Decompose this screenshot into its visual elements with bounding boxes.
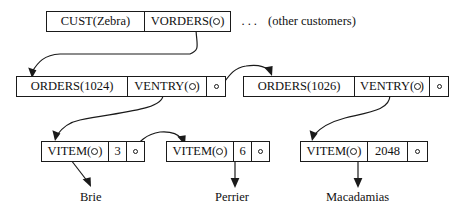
product-label-perrier: Perrier <box>215 191 249 204</box>
vitem-prefix: VITEM( <box>48 145 92 158</box>
wire-vitem-brie-to-label <box>71 160 88 182</box>
cust-label-cell: CUST(Zebra) <box>47 12 144 31</box>
orders-1024-node: ORDERS(1024) VENTRY() <box>16 76 226 97</box>
vitem-perrier-quantity-cell: 6 <box>233 142 251 161</box>
arrowhead-macadamias-label <box>354 178 363 188</box>
pointer-diagram: CUST(Zebra) VORDERS() ··· (other custome… <box>0 0 458 215</box>
pointer-key-icon <box>414 83 420 90</box>
orders-1026-null-pointer-cell <box>429 77 448 96</box>
cust-label: CUST(Zebra) <box>61 15 130 28</box>
arrowhead-vitem-brie <box>52 130 60 141</box>
null-pointer-icon <box>437 84 442 89</box>
vitem-brie-node: VITEM() 3 <box>41 141 145 162</box>
product-label-macadamias: Macadamias <box>326 191 389 204</box>
pointer-key-icon <box>189 83 196 90</box>
wire-ventry1026-to-vitem-macadamias <box>314 95 390 135</box>
pointer-key-icon <box>350 148 357 155</box>
vitem-macadamias-pointer-cell: VITEM() <box>301 142 367 161</box>
ventry-1024-pointer-cell: VENTRY() <box>127 77 206 96</box>
vorders-pointer-cell: VORDERS() <box>144 12 230 31</box>
other-customers-label: (other customers) <box>268 15 356 28</box>
ellipsis-marker: ··· <box>241 17 260 32</box>
arrowhead-brie-label <box>83 177 91 187</box>
vitem-prefix: VITEM( <box>307 145 351 158</box>
null-pointer-icon <box>258 149 263 154</box>
orders-1026-label: ORDERS(1026) <box>258 80 341 93</box>
pointer-dot-icon <box>214 84 219 89</box>
connector-wires <box>0 0 458 215</box>
ventry-1026-pointer-cell: VENTRY() <box>354 77 429 96</box>
product-label-brie: Brie <box>80 191 102 204</box>
orders-1026-label-cell: ORDERS(1026) <box>244 77 354 96</box>
wire-ventry1024-to-vitem-brie <box>57 95 163 135</box>
ventry-prefix: VENTRY( <box>360 80 414 93</box>
vitem-suffix: ) <box>357 145 361 158</box>
pointer-key-icon <box>213 18 220 25</box>
vitem-brie-quantity: 3 <box>114 145 120 158</box>
vitem-macadamias-quantity-cell: 2048 <box>367 142 407 161</box>
vitem-suffix: ) <box>98 145 102 158</box>
orders-1024-label-cell: ORDERS(1024) <box>17 77 127 96</box>
pointer-dot-icon <box>133 149 138 154</box>
null-pointer-icon <box>415 149 420 154</box>
wire-vorders-to-orders1024 <box>32 30 197 72</box>
arrowhead-vitem-macadamias <box>310 130 318 141</box>
arrowhead-perrier-label <box>231 178 240 188</box>
vitem-brie-quantity-cell: 3 <box>108 142 126 161</box>
vitem-brie-next-pointer-cell <box>126 142 144 161</box>
ventry-suffix: ) <box>196 80 200 93</box>
vitem-perrier-quantity: 6 <box>239 145 245 158</box>
vorders-suffix: ) <box>220 15 224 28</box>
vitem-prefix: VITEM( <box>173 145 217 158</box>
arrowhead-orders1026 <box>264 66 272 76</box>
vitem-perrier-pointer-cell: VITEM() <box>167 142 233 161</box>
cust-node: CUST(Zebra) VORDERS() <box>46 11 231 32</box>
pointer-key-icon <box>91 148 98 155</box>
vitem-brie-pointer-cell: VITEM() <box>42 142 108 161</box>
vitem-macadamias-quantity: 2048 <box>375 145 400 158</box>
vitem-perrier-null-pointer-cell <box>251 142 269 161</box>
vitem-macadamias-node: VITEM() 2048 <box>300 141 428 162</box>
ventry-prefix: VENTRY( <box>134 80 188 93</box>
orders-1024-label: ORDERS(1024) <box>31 80 114 93</box>
vitem-macadamias-null-pointer-cell <box>407 142 427 161</box>
vitem-suffix: ) <box>223 145 227 158</box>
pointer-key-icon <box>216 148 223 155</box>
vorders-prefix: VORDERS( <box>151 15 214 28</box>
vitem-perrier-node: VITEM() 6 <box>166 141 270 162</box>
orders-1024-next-pointer-cell <box>206 77 225 96</box>
orders-1026-node: ORDERS(1026) VENTRY() <box>243 76 449 97</box>
